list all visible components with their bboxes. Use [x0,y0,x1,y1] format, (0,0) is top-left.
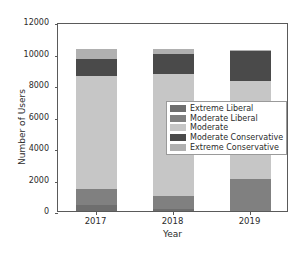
y-tick-label: 2000 [29,177,49,185]
y-tick-label: 12000 [24,19,49,27]
bar-segment[interactable] [230,50,270,52]
legend-item-label: Extreme Liberal [190,104,253,113]
bar-segment[interactable] [76,205,116,211]
bar-segment[interactable] [153,54,193,74]
bar-segment[interactable] [153,49,193,54]
legend-color-swatch [170,124,186,131]
legend-item-label: Moderate Conservative [190,133,283,142]
legend-item-label: Moderate Liberal [190,114,258,123]
legend-color-swatch [170,115,186,122]
y-tick-label: 4000 [29,145,49,153]
y-axis-title: Number of Users [17,47,27,207]
y-tick-mark [55,56,58,57]
legend-item[interactable]: Extreme Conservative [170,142,283,152]
bar-segment[interactable] [76,59,116,76]
legend: Extreme LiberalModerate LiberalModerateM… [166,101,287,155]
x-tick-mark [96,212,97,215]
y-tick-label: 8000 [29,82,49,90]
legend-item-label: Moderate [190,123,228,132]
y-tick-label: 0 [44,208,49,216]
y-tick-mark [55,24,58,25]
bar-segment[interactable] [153,196,193,209]
legend-item[interactable]: Moderate Liberal [170,114,283,124]
y-tick-label: 10000 [24,51,49,59]
legend-item[interactable]: Moderate [170,123,283,133]
x-tick-mark [250,212,251,215]
chart-figure: 020004000600080001000012000 Number of Us… [0,0,307,253]
bar-segment[interactable] [76,189,116,205]
x-tick-label: 2019 [239,216,261,226]
y-tick-label: 6000 [29,114,49,122]
legend-item[interactable]: Extreme Liberal [170,104,283,114]
x-tick-mark [173,212,174,215]
legend-item-label: Extreme Conservative [190,143,279,152]
bar-segment[interactable] [230,179,270,211]
x-tick-label: 2018 [162,216,184,226]
bar-segment[interactable] [76,49,116,59]
legend-color-swatch [170,134,186,141]
bar-segment[interactable] [153,209,193,211]
legend-color-swatch [170,144,186,151]
bar-segment[interactable] [76,76,116,189]
y-tick-mark [55,87,58,88]
legend-color-swatch [170,105,186,112]
legend-item[interactable]: Moderate Conservative [170,133,283,143]
y-tick-mark [55,150,58,151]
x-tick-label: 2017 [85,216,107,226]
x-axis-title: Year [57,229,288,239]
bar-segment[interactable] [230,51,270,81]
y-tick-mark [55,119,58,120]
y-tick-mark [55,213,58,214]
bar-2017[interactable] [76,49,116,211]
y-axis: 020004000600080001000012000 [0,0,57,253]
y-tick-mark [55,182,58,183]
